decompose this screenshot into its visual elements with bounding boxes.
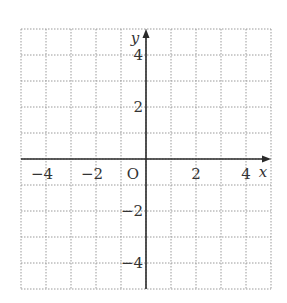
- y-tick-label: −4: [121, 254, 143, 272]
- y-tick-label: 4: [133, 46, 143, 64]
- y-tick-label: 2: [133, 98, 143, 116]
- coordinate-plane: −4−22442−2−4Oxy: [0, 0, 287, 303]
- y-axis-arrow-icon: [143, 29, 150, 38]
- axis-labels: −4−22442−2−4Oxy: [31, 29, 268, 272]
- axes: [21, 29, 271, 289]
- x-tick-label: −4: [31, 165, 53, 183]
- x-tick-label: −2: [81, 165, 103, 183]
- x-axis-arrow-icon: [262, 156, 271, 163]
- origin-label: O: [127, 165, 139, 183]
- x-tick-label: 2: [191, 165, 201, 183]
- y-tick-label: −2: [121, 202, 143, 220]
- x-axis-label: x: [259, 163, 268, 181]
- y-axis-label: y: [130, 29, 140, 47]
- x-tick-label: 4: [241, 165, 251, 183]
